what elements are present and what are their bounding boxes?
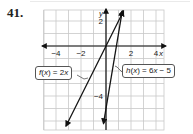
h-callout-name: h [126, 66, 130, 75]
x-tick-label: −4 [51, 49, 61, 58]
f-callout-leader [77, 75, 88, 79]
f-function-callout: f(x) = 2x [35, 66, 72, 80]
x-tick-label: −2 [76, 49, 86, 58]
callout-leaders [77, 66, 122, 79]
f-callout-name: f [39, 68, 41, 77]
y-tick-label: 2 [99, 17, 104, 26]
x-axis-label: x [158, 49, 164, 58]
h-function-callout: h(x) = 6x − 5 [122, 64, 175, 78]
x-tick-label: 2 [129, 49, 134, 58]
y-tick-label: −4 [94, 92, 104, 101]
